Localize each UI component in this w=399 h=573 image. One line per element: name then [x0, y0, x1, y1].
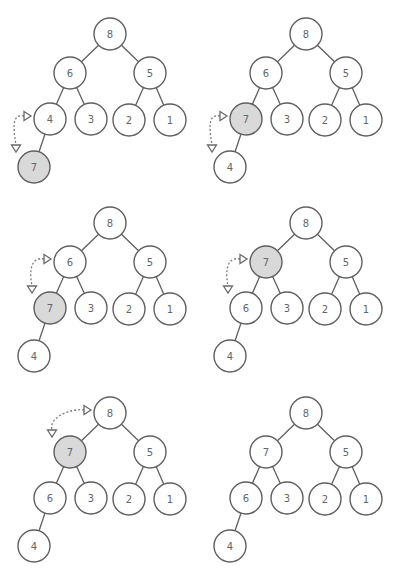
- tree-edge: [317, 45, 334, 62]
- node-value: 7: [263, 257, 269, 268]
- heap-node: 6: [34, 482, 66, 514]
- heap-node: 7: [250, 436, 282, 468]
- heap-node: 6: [54, 57, 86, 89]
- heap-node: 1: [154, 483, 186, 515]
- node-value: 1: [363, 304, 369, 315]
- tree-edge: [77, 467, 85, 484]
- tree-edge: [273, 467, 281, 484]
- heap-node: 1: [154, 293, 186, 325]
- node-value: 2: [126, 304, 132, 315]
- arrowhead-down-icon: [224, 286, 233, 293]
- heap-node: 2: [113, 293, 145, 325]
- swap-arc: [14, 116, 24, 145]
- node-value: 8: [303, 29, 309, 40]
- node-value: 2: [126, 115, 132, 126]
- tree-edge: [235, 134, 241, 152]
- swap-arc: [52, 410, 84, 430]
- heap-node: 5: [134, 246, 166, 278]
- tree-edge: [39, 134, 45, 152]
- node-value: 1: [167, 494, 173, 505]
- arrowhead-down-icon: [48, 430, 57, 437]
- node-value: 7: [263, 447, 269, 458]
- heap-panel-step-4: 87563214: [214, 207, 382, 372]
- node-value: 8: [303, 218, 309, 229]
- heap-panel-step-3: 86573214: [18, 207, 186, 372]
- heap-node: 1: [350, 104, 382, 136]
- node-value: 4: [47, 114, 53, 125]
- heap-panel-step-1: 86543217: [12, 18, 187, 183]
- heap-node: 3: [75, 103, 107, 135]
- heap-node: 8: [290, 207, 322, 239]
- arrowhead-right-icon: [24, 112, 31, 121]
- heap-panel-step-5: 87563214: [18, 397, 186, 562]
- node-value: 1: [167, 304, 173, 315]
- tree-edge: [156, 88, 163, 106]
- heap-node: 1: [350, 293, 382, 325]
- swap-arrow-icon: [28, 255, 52, 294]
- tree-edge: [56, 467, 63, 484]
- node-value: 5: [147, 447, 153, 458]
- heap-node: 4: [18, 530, 50, 562]
- node-value: 6: [47, 493, 53, 504]
- node-value: 3: [284, 493, 290, 504]
- arrowhead-down-icon: [28, 286, 37, 293]
- tree-edge: [156, 467, 163, 485]
- heap-node: 4: [18, 340, 50, 372]
- swap-arc: [227, 259, 240, 286]
- swap-arrow-icon: [224, 255, 248, 294]
- node-value: 1: [363, 115, 369, 126]
- heap-node: 4: [214, 151, 246, 183]
- heap-node: 3: [271, 482, 303, 514]
- swap-arrow-icon: [48, 406, 92, 438]
- arrowhead-down-icon: [12, 145, 21, 152]
- heap-panel-step-6: 87563214: [214, 397, 382, 562]
- heap-node: 1: [154, 104, 186, 136]
- tree-edge: [39, 323, 45, 341]
- node-value: 7: [67, 447, 73, 458]
- node-value: 2: [322, 494, 328, 505]
- tree-edge: [121, 234, 138, 251]
- swap-arrow-icon: [12, 112, 32, 153]
- node-value: 3: [284, 303, 290, 314]
- arrowhead-right-icon: [84, 406, 91, 415]
- node-value: 1: [167, 115, 173, 126]
- heap-node: 5: [330, 57, 362, 89]
- heap-node: 3: [75, 292, 107, 324]
- heap-node: 8: [94, 397, 126, 429]
- tree-edge: [277, 424, 294, 441]
- node-value: 5: [147, 68, 153, 79]
- node-value: 1: [363, 494, 369, 505]
- node-value: 8: [107, 29, 113, 40]
- tree-edge: [252, 88, 259, 105]
- heap-node: 5: [134, 436, 166, 468]
- heap-diagram-canvas: 8654321786573214865732148756321487563214…: [0, 0, 399, 573]
- heap-node: 1: [350, 483, 382, 515]
- tree-edge: [77, 88, 85, 105]
- tree-edge: [332, 277, 340, 295]
- tree-edge: [277, 45, 294, 62]
- tree-edge: [56, 88, 63, 105]
- tree-edge: [39, 513, 45, 531]
- heap-node: 3: [271, 103, 303, 135]
- node-value: 6: [243, 493, 249, 504]
- heap-node: 5: [330, 436, 362, 468]
- tree-edge: [136, 88, 144, 106]
- tree-edge: [317, 424, 334, 441]
- heap-node: 2: [309, 483, 341, 515]
- heap-node: 7: [34, 292, 66, 324]
- tree-edge: [317, 234, 334, 251]
- node-value: 6: [243, 303, 249, 314]
- heap-node: 2: [309, 104, 341, 136]
- tree-edge: [81, 424, 98, 441]
- tree-edge: [121, 45, 138, 62]
- tree-edge: [136, 277, 144, 295]
- swap-arc: [31, 259, 44, 286]
- node-value: 4: [227, 541, 233, 552]
- heap-node: 4: [214, 340, 246, 372]
- tree-edge: [352, 88, 359, 106]
- node-value: 4: [227, 351, 233, 362]
- node-value: 7: [47, 303, 53, 314]
- tree-edge: [235, 323, 241, 341]
- heap-node: 2: [113, 104, 145, 136]
- heap-node: 6: [230, 482, 262, 514]
